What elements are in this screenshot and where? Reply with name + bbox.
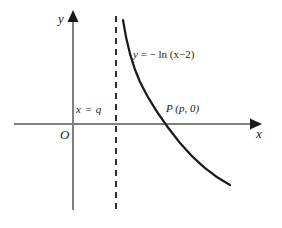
y-axis-label: y bbox=[58, 12, 64, 25]
x-axis-label: x bbox=[256, 127, 262, 140]
point-label-p: P (p, 0) bbox=[166, 103, 199, 114]
asymptote-label: x = q bbox=[76, 104, 102, 115]
graph-figure: y x O x = q y = − ln (x−2) P (p, 0) bbox=[0, 0, 282, 228]
y-axis-arrowhead bbox=[68, 10, 79, 22]
curve-equation-label: y = − ln (x−2) bbox=[133, 49, 194, 60]
origin-label: O bbox=[60, 128, 69, 141]
graph-canvas bbox=[0, 0, 282, 228]
equation-rhs: − ln (x−2) bbox=[150, 48, 195, 60]
